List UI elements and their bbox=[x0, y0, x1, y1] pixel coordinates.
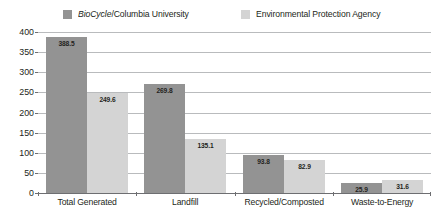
bar-value-label: 82.9 bbox=[286, 163, 323, 171]
y-axis-tick-label: 50 bbox=[3, 168, 34, 178]
x-axis-category-label: Recycled/Composted bbox=[238, 196, 328, 207]
bar[interactable]: 25.9 bbox=[341, 183, 382, 193]
x-axis-tick-mark bbox=[235, 192, 236, 196]
y-axis-tick-label: 400 bbox=[3, 27, 34, 37]
y-axis: 050100150200250300350400 bbox=[0, 32, 34, 193]
bar[interactable]: 31.6 bbox=[382, 180, 423, 193]
bar-group: 269.8135.1 bbox=[144, 32, 226, 193]
bar-value-label: 388.5 bbox=[48, 40, 85, 48]
bars-container: 388.5249.6269.8135.193.882.925.931.6 bbox=[38, 32, 431, 193]
bar-value-label: 31.6 bbox=[384, 183, 421, 191]
y-axis-tick-label: 300 bbox=[3, 67, 34, 77]
bar-value-label: 249.6 bbox=[89, 96, 126, 104]
legend-label: BioCycle/Columbia University bbox=[78, 9, 189, 19]
y-axis-tick-label: 250 bbox=[3, 87, 34, 97]
bar[interactable]: 82.9 bbox=[284, 160, 325, 193]
legend-item-2[interactable]: Environmental Protection Agency bbox=[241, 7, 390, 21]
bar[interactable]: 249.6 bbox=[87, 93, 128, 193]
bar-group: 388.5249.6 bbox=[46, 32, 128, 193]
bar-value-label: 25.9 bbox=[343, 186, 380, 194]
bar-group: 93.882.9 bbox=[243, 32, 325, 193]
x-axis-category-label: Waste-to-Energy bbox=[337, 196, 427, 207]
x-axis-tick-mark bbox=[333, 192, 334, 196]
legend-item-1[interactable]: BioCycle/Columbia University bbox=[63, 7, 197, 21]
y-axis-tick-label: 150 bbox=[3, 128, 34, 138]
y-axis-tick-label: 0 bbox=[3, 188, 34, 198]
bar-chart: BioCycle/Columbia UniversityEnvironmenta… bbox=[0, 0, 438, 221]
y-axis-tick-label: 350 bbox=[3, 47, 34, 57]
x-axis-category-label: Landfill bbox=[140, 196, 230, 207]
legend-swatch-icon bbox=[241, 10, 250, 19]
bar[interactable]: 93.8 bbox=[243, 155, 284, 193]
y-axis-tick-label: 100 bbox=[3, 148, 34, 158]
legend-label: Environmental Protection Agency bbox=[256, 9, 380, 19]
bar[interactable]: 388.5 bbox=[46, 37, 87, 193]
legend-swatch-icon bbox=[63, 10, 72, 19]
bar-group: 25.931.6 bbox=[341, 32, 423, 193]
chart-legend: BioCycle/Columbia UniversityEnvironmenta… bbox=[0, 6, 438, 22]
x-axis-tick-mark bbox=[136, 192, 137, 196]
bar-value-label: 135.1 bbox=[187, 142, 224, 150]
x-axis-category-label: Total Generated bbox=[42, 196, 132, 207]
x-axis: Total GeneratedLandfillRecycled/Composte… bbox=[38, 196, 431, 212]
y-axis-tick-label: 200 bbox=[3, 108, 34, 118]
x-axis-tick-mark bbox=[38, 192, 39, 196]
bar-value-label: 269.8 bbox=[146, 87, 183, 95]
bar[interactable]: 135.1 bbox=[185, 139, 226, 193]
bar-value-label: 93.8 bbox=[245, 158, 282, 166]
bar[interactable]: 269.8 bbox=[144, 84, 185, 193]
x-axis-tick-mark bbox=[430, 192, 431, 196]
